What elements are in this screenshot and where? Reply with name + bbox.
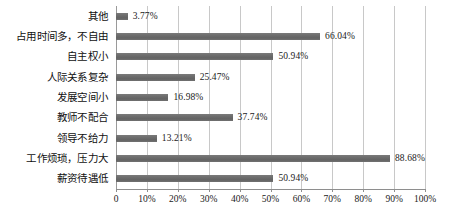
x-tick-mark: [240, 189, 241, 192]
bar-value-label: 50.94%: [278, 173, 308, 184]
category-label: 人际关系复杂: [47, 71, 108, 84]
x-tick-mark: [147, 189, 148, 192]
horizontal-bar-chart: 其他占用时间多，不自由自主权小人际关系复杂发展空间小教师不配合领导不给力工作烦琐…: [0, 0, 450, 224]
plot-area: [116, 6, 425, 189]
x-tick-mark: [178, 189, 179, 192]
x-tick-mark: [209, 189, 210, 192]
x-tick-mark: [332, 189, 333, 192]
bar-value-label: 3.77%: [133, 11, 158, 22]
x-tick-mark: [425, 189, 426, 192]
category-label: 占用时间多，不自由: [16, 30, 108, 43]
gridline-100: [425, 6, 426, 189]
x-tick-mark: [394, 189, 395, 192]
bar: [116, 33, 320, 40]
bar: [116, 175, 273, 182]
x-tick-label: 100%: [405, 193, 445, 205]
bar: [116, 13, 128, 20]
category-label: 其他: [88, 10, 108, 23]
x-tick-mark: [271, 189, 272, 192]
bar-value-label: 88.68%: [395, 153, 425, 164]
category-label: 发展空间小: [57, 91, 108, 104]
category-label: 薪资待遇低: [57, 172, 108, 185]
bar-value-label: 50.94%: [278, 51, 308, 62]
category-label: 领导不给力: [57, 132, 108, 145]
bar-value-label: 13.21%: [162, 133, 192, 144]
bar: [116, 114, 233, 121]
x-tick-mark: [116, 189, 117, 192]
bar: [116, 53, 273, 60]
bar: [116, 94, 168, 101]
category-label: 自主权小: [67, 50, 108, 63]
bar-value-label: 16.98%: [173, 92, 203, 103]
bar: [116, 74, 195, 81]
category-label: 教师不配合: [57, 111, 108, 124]
bar: [116, 135, 157, 142]
category-label: 工作烦琐，压力大: [26, 152, 108, 165]
bar-value-label: 37.74%: [238, 112, 268, 123]
bar-value-label: 25.47%: [200, 72, 230, 83]
x-tick-mark: [301, 189, 302, 192]
bar-value-label: 66.04%: [325, 31, 355, 42]
x-tick-mark: [363, 189, 364, 192]
bar: [116, 155, 390, 162]
